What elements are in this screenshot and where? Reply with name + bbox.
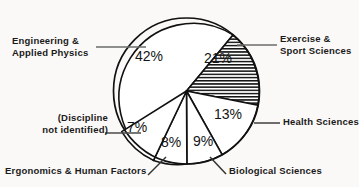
pie-label-exercise-sport-sciences: Exercise & Sport Sciences (280, 33, 351, 56)
pie-label-line-1: Ergonomics & Human Factors (5, 165, 146, 176)
pie-label-line-1: Biological Sciences (229, 165, 322, 176)
pie-value-exercise-sport-sciences: 21% (204, 50, 232, 66)
pie-label-line-1: Health Sciences (283, 116, 359, 127)
pie-label-biological-sciences: Biological Sciences (229, 165, 322, 177)
pie-slices (114, 18, 260, 165)
pie-value-discipline-not-identified: 7% (127, 119, 147, 135)
pie-value-engineering-applied-physics: 42% (135, 48, 163, 64)
pie-value-health-sciences: 13% (214, 106, 242, 122)
pie-label-line-1: Engineering & (12, 35, 79, 46)
pie-label-engineering-applied-physics: Engineering & Applied Physics (12, 35, 88, 58)
leader-line-biological (210, 157, 226, 174)
pie-label-discipline-not-identified: (Discipline not identified) (30, 112, 108, 135)
pie-value-biological-sciences: 9% (193, 133, 213, 149)
pie-label-line-2: Applied Physics (12, 47, 88, 59)
pie-label-line-2: not identified) (30, 124, 108, 136)
pie-value-ergonomics-human-factors: 8% (161, 134, 181, 150)
pie-label-health-sciences: Health Sciences (283, 116, 359, 128)
pie-label-line-1: (Discipline (58, 112, 108, 123)
pie-label-line-1: Exercise & (280, 33, 331, 44)
pie-label-line-2: Sport Sciences (280, 45, 351, 57)
pie-label-ergonomics-human-factors: Ergonomics & Human Factors (5, 165, 146, 177)
